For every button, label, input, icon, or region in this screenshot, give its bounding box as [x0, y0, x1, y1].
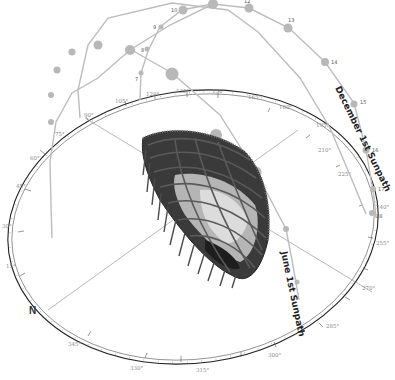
hour-label-14: 14 — [331, 59, 337, 65]
azimuth-label-270: 270° — [362, 285, 375, 291]
azimuth-label-240: 240° — [376, 204, 389, 210]
azimuth-label-180: 180° — [279, 104, 292, 110]
sun-node — [48, 92, 54, 98]
sun-node-13 — [284, 24, 293, 33]
hour-label-15: 15 — [360, 99, 366, 105]
azimuth-label-300: 300° — [268, 352, 281, 358]
sun-node-7 — [139, 71, 144, 76]
sun-node-14 — [321, 58, 329, 66]
north-label: N — [29, 305, 36, 316]
sun-node-8 — [145, 47, 150, 52]
azimuth-label-135: 135° — [176, 88, 189, 94]
hour-label-9: 9 — [153, 24, 156, 30]
sun-node — [166, 68, 179, 81]
azimuth-label-15: 15° — [6, 263, 16, 269]
azimuth-label-165: 165° — [248, 94, 261, 100]
azimuth-label-120: 120° — [146, 91, 159, 97]
azimuth-label-315: 315° — [196, 367, 209, 373]
sun-node-9 — [159, 25, 164, 30]
hour-label-13: 13 — [288, 17, 294, 23]
azimuth-label-330: 330° — [130, 365, 143, 371]
azimuth-label-30: 30° — [2, 223, 12, 229]
sun-node-18 — [369, 210, 375, 216]
sun-node-10 — [179, 6, 188, 15]
hour-label-10: 10 — [171, 7, 177, 13]
sunpath-diagram: 15° 30° 45° 60° 75° 90° 105° 120° 135° 1… — [0, 0, 395, 380]
sun-node — [54, 67, 61, 74]
sun-node — [283, 226, 289, 232]
azimuth-label-210: 210° — [318, 147, 331, 153]
azimuth-label-75: 75° — [55, 131, 65, 137]
shell-structure — [142, 131, 269, 288]
hour-label-8: 8 — [141, 47, 144, 53]
hour-label-7: 7 — [135, 76, 138, 82]
azimuth-label-285: 285° — [326, 323, 339, 329]
azimuth-label-90: 90° — [84, 112, 94, 118]
sun-node — [94, 41, 103, 50]
azimuth-label-105: 105° — [115, 98, 128, 104]
azimuth-label-255: 255° — [376, 240, 389, 246]
sun-node — [69, 49, 76, 56]
azimuth-label-150: 150° — [212, 88, 225, 94]
azimuth-label-45: 45° — [16, 183, 26, 189]
sun-node-12 — [245, 4, 254, 13]
sun-node-17 — [370, 186, 376, 192]
azimuth-label-345: 345° — [68, 341, 81, 347]
hour-label-18: 18 — [376, 213, 382, 219]
azimuth-label-60: 60° — [30, 155, 40, 161]
sun-node — [125, 45, 135, 55]
sun-node — [48, 119, 54, 125]
hour-label-12: 12 — [244, 0, 250, 4]
